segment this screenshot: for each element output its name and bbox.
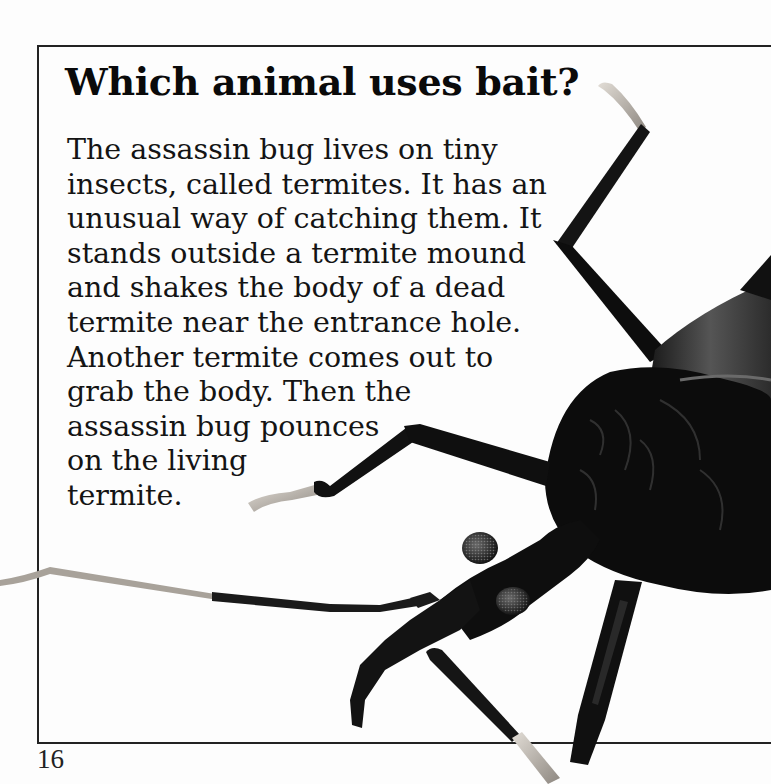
body-line: termite. bbox=[67, 479, 547, 514]
body-line: stands outside a termite mound bbox=[67, 237, 547, 272]
page-title: Which animal uses bait? bbox=[65, 58, 579, 106]
body-line: assassin bug pounces bbox=[67, 410, 547, 445]
book-page: Which animal uses bait? The assassin bug… bbox=[0, 0, 771, 784]
upper-leg-tip bbox=[598, 82, 646, 132]
body-line: unusual way of catching them. It bbox=[67, 202, 547, 237]
body-line: Another termite comes out to bbox=[67, 341, 547, 376]
body-line: and shakes the body of a dead bbox=[67, 271, 547, 306]
lower-leg-thin bbox=[426, 648, 520, 742]
body-paragraph: The assassin bug lives on tiny insects, … bbox=[67, 133, 547, 514]
body-line: on the living bbox=[67, 444, 547, 479]
body-line: grab the body. Then the bbox=[67, 375, 547, 410]
body-line: termite near the entrance hole. bbox=[67, 306, 547, 341]
bug-antenna bbox=[0, 567, 218, 600]
page-number: 16 bbox=[37, 744, 64, 774]
body-line: The assassin bug lives on tiny bbox=[67, 133, 547, 168]
body-line: insects, called termites. It has an bbox=[67, 168, 547, 203]
